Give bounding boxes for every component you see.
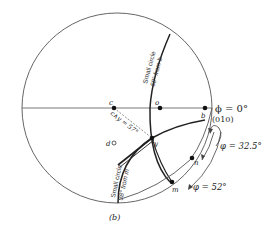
phi-32-label: φ = 32.5° bbox=[220, 141, 262, 151]
point-m bbox=[170, 180, 175, 185]
label-b: b bbox=[201, 112, 206, 120]
plane-010-label: (010) bbox=[212, 115, 234, 124]
phi-52-label: φ = 52° bbox=[193, 182, 227, 192]
label-y: y bbox=[153, 140, 159, 148]
angle-cy-label: c∧y = 57° bbox=[109, 109, 140, 136]
phi-zero-label: ϕ = 0° bbox=[215, 103, 248, 114]
label-n: n bbox=[194, 159, 199, 167]
label-m: m bbox=[172, 186, 179, 194]
label-o: o bbox=[155, 99, 159, 107]
figure-caption: (b) bbox=[109, 213, 120, 222]
label-d: d bbox=[106, 140, 111, 148]
label-c: c bbox=[109, 99, 113, 107]
point-b bbox=[203, 106, 208, 111]
zone-line-y bbox=[118, 138, 152, 165]
stereographic-projection: c o b y m n d ϕ = 0° (010) φ = 32.5° φ =… bbox=[0, 0, 267, 236]
point-d bbox=[112, 141, 116, 145]
zone-line-y-2 bbox=[120, 140, 154, 167]
